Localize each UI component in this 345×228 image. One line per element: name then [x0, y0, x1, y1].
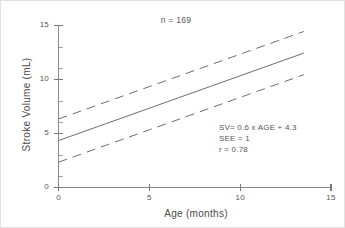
regression-annotation: SV= 0.6 x AGE + 4.3 SEE = 1 r = 0.78: [219, 122, 297, 155]
x-tick-label-15: 15: [319, 193, 343, 202]
y-tick-label-15: 15: [27, 20, 49, 29]
annotation-see: SEE = 1: [219, 133, 297, 144]
annotation-equation: SV= 0.6 x AGE + 4.3: [219, 122, 297, 133]
upper-confidence-band: [59, 32, 304, 120]
y-tick-label-0: 0: [27, 182, 49, 191]
annotation-r: r = 0.78: [219, 144, 297, 155]
x-tick-label-5: 5: [137, 193, 161, 202]
y-axis-label: Stroke Volume (mL): [21, 35, 32, 175]
x-axis-label: Age (months): [61, 208, 331, 219]
x-tick-label-0: 0: [47, 193, 71, 202]
chart-figure: n = 169 15 10 5 0 0 5 10 15 Stroke Volum…: [0, 0, 345, 228]
chart-title: n = 169: [111, 15, 241, 25]
x-tick-label-10: 10: [228, 193, 252, 202]
